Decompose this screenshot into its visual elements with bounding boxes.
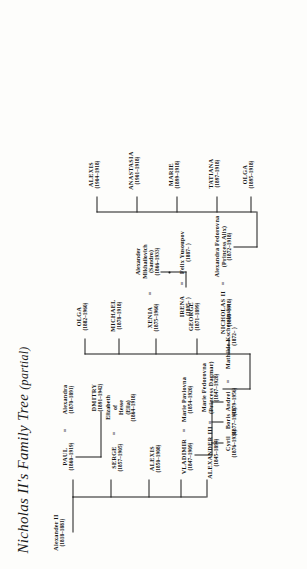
connector-alexanderiii-down [222, 388, 250, 389]
page-title-qualifier: (partial) [16, 346, 30, 389]
connector-to-serge [110, 479, 111, 497]
connector-to-marie-child [176, 196, 177, 212]
node-marie-fedorovna: Marie Fedorovna (Princess Dagmar) (1847–… [200, 355, 219, 419]
node-alexis-uncle: ALEXIS (1850–1908) [148, 437, 160, 479]
node-nicholas-ii: NICHOLAS II (1868–1918) [219, 286, 231, 338]
connector-nicholasii-to-bus [256, 211, 257, 247]
page-title: Nicholas II's Family Tree (partial) [14, 346, 31, 553]
node-olga-child: OLGA (1895–1918) [241, 152, 253, 196]
connector-nicholasii-down [233, 246, 257, 247]
connector-to-alexis [148, 479, 149, 497]
connector-gen2-bus [72, 496, 206, 497]
node-anastasia: ANASTASIA (1901–1918) [127, 144, 139, 196]
node-elizabeth-of-hesse: Elizabeth of Hesse (Ella) (1864–1918) [104, 384, 136, 430]
connector-gen3-bus [84, 353, 250, 354]
node-alexis-child: ALEXIS (1904–1918) [87, 152, 99, 196]
connector-to-nicholas-ii [228, 338, 229, 354]
connector-to-paul [72, 479, 73, 497]
node-olga-sister: OLGA (1882–1960) [75, 294, 87, 338]
connector-to-anastasia [136, 196, 137, 212]
connector-to-alexis-child [96, 196, 97, 212]
connector-to-michael [118, 338, 119, 354]
connector-to-alexanderiii [206, 479, 207, 497]
node-marie-child: MARIE (1899–1918) [167, 152, 179, 196]
descent-dot [168, 271, 170, 273]
node-felix-yusoupov: Felix Yusoupov (1887– ) [178, 224, 190, 280]
connector-to-vladimir [180, 479, 181, 497]
connector-alexanderiii-to-bus [249, 353, 250, 389]
node-paul: PAUL (1860–1919) [61, 433, 73, 479]
node-dmitry: DMITRY (1891–1942) [90, 375, 102, 419]
connector-to-olga-child [250, 196, 251, 212]
connector-to-xenia [155, 338, 156, 354]
connector-alexanderii-stem [72, 496, 73, 532]
node-george: GEORGE (1871–1899) [187, 294, 199, 338]
node-michael: MICHAEL (1878–1918) [109, 292, 121, 338]
connector-to-george [196, 338, 197, 354]
connector-to-tatiana [216, 196, 217, 212]
chart-sheet: Nicholas II's Family Tree (partial) Alex… [0, 0, 307, 569]
node-serge: SERGE (1857–1905) [110, 435, 122, 479]
node-vladimir: VLADIMIR (1847–1909) [180, 433, 192, 479]
node-sandro: Alexander Mikhailovich (Sandro) (1866–19… [134, 232, 159, 290]
node-marie-pavlovna: Marie Pavlovna (1854–1920) [180, 371, 192, 427]
node-alexandra-alix: Alexandra Fedorovna (Princess Alix) (187… [213, 212, 232, 280]
node-alexander-iii: ALEXANDER III (1845–1894) [206, 425, 218, 479]
node-alexandra-of-greece: Alexandra (1870–1891) [61, 371, 73, 427]
page-title-text: Nicholas II's Family Tree [14, 393, 30, 553]
node-alexander-ii: Alexander II (1818–1881) [52, 501, 64, 563]
node-tatiana: TATIANA (1897–1918) [207, 150, 219, 196]
node-xenia: XENIA (1875–1960) [146, 296, 158, 338]
family-tree-page: Nicholas II's Family Tree (partial) Alex… [0, 0, 307, 569]
connector-paul-down [75, 456, 101, 457]
connector-to-olga-sister [84, 338, 85, 354]
